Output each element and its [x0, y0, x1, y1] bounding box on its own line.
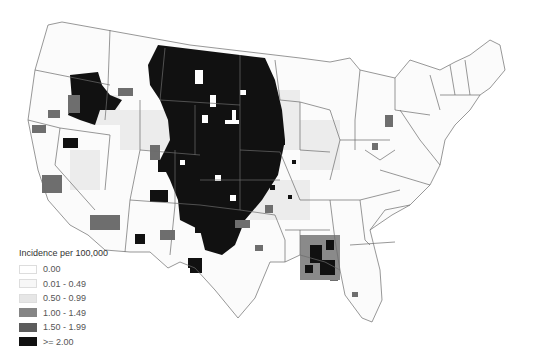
legend-swatch — [19, 294, 37, 303]
legend-swatch — [19, 265, 37, 274]
legend-swatch — [19, 323, 37, 332]
legend-label: 0.50 - 0.99 — [43, 293, 86, 303]
legend-label: 1.00 - 1.49 — [43, 308, 86, 318]
legend-item: 0.00 — [19, 262, 129, 277]
legend-swatch — [19, 279, 37, 288]
legend-item: 0.50 - 0.99 — [19, 291, 129, 306]
legend-label: 1.50 - 1.99 — [43, 322, 86, 332]
legend-swatch — [19, 337, 37, 346]
legend-item: 1.50 - 1.99 — [19, 320, 129, 335]
legend-item: >= 2.00 — [19, 335, 129, 350]
legend-item: 1.00 - 1.49 — [19, 306, 129, 321]
legend-title: Incidence per 100,000 — [19, 248, 129, 258]
lower-mississippi-cluster — [300, 235, 340, 280]
legend-swatch — [19, 308, 37, 317]
legend-item: 0.01 - 0.49 — [19, 277, 129, 292]
legend-label: 0.00 — [43, 264, 61, 274]
legend-label: >= 2.00 — [43, 337, 74, 347]
map-legend: Incidence per 100,000 0.00 0.01 - 0.49 0… — [19, 248, 129, 349]
legend-label: 0.01 - 0.49 — [43, 279, 86, 289]
